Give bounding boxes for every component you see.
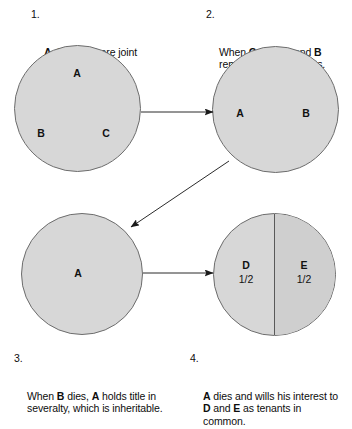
arrow-circle2-to-circle3 [131,161,229,227]
